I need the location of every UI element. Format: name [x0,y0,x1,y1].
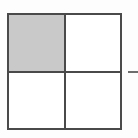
quadrant-top-left [9,15,65,72]
quadrant-bottom-right-label [66,73,67,74]
figure-canvas [0,0,138,138]
quadrant-bottom-right [65,72,121,129]
leader-line [128,71,138,73]
quadrant-top-right-label [66,15,67,16]
quadrant-top-left-label [9,15,10,16]
grid-square [7,13,122,130]
quadrant-top-right [65,15,121,72]
quadrant-bottom-left [9,72,65,129]
quadrant-bottom-left-label [9,73,10,74]
